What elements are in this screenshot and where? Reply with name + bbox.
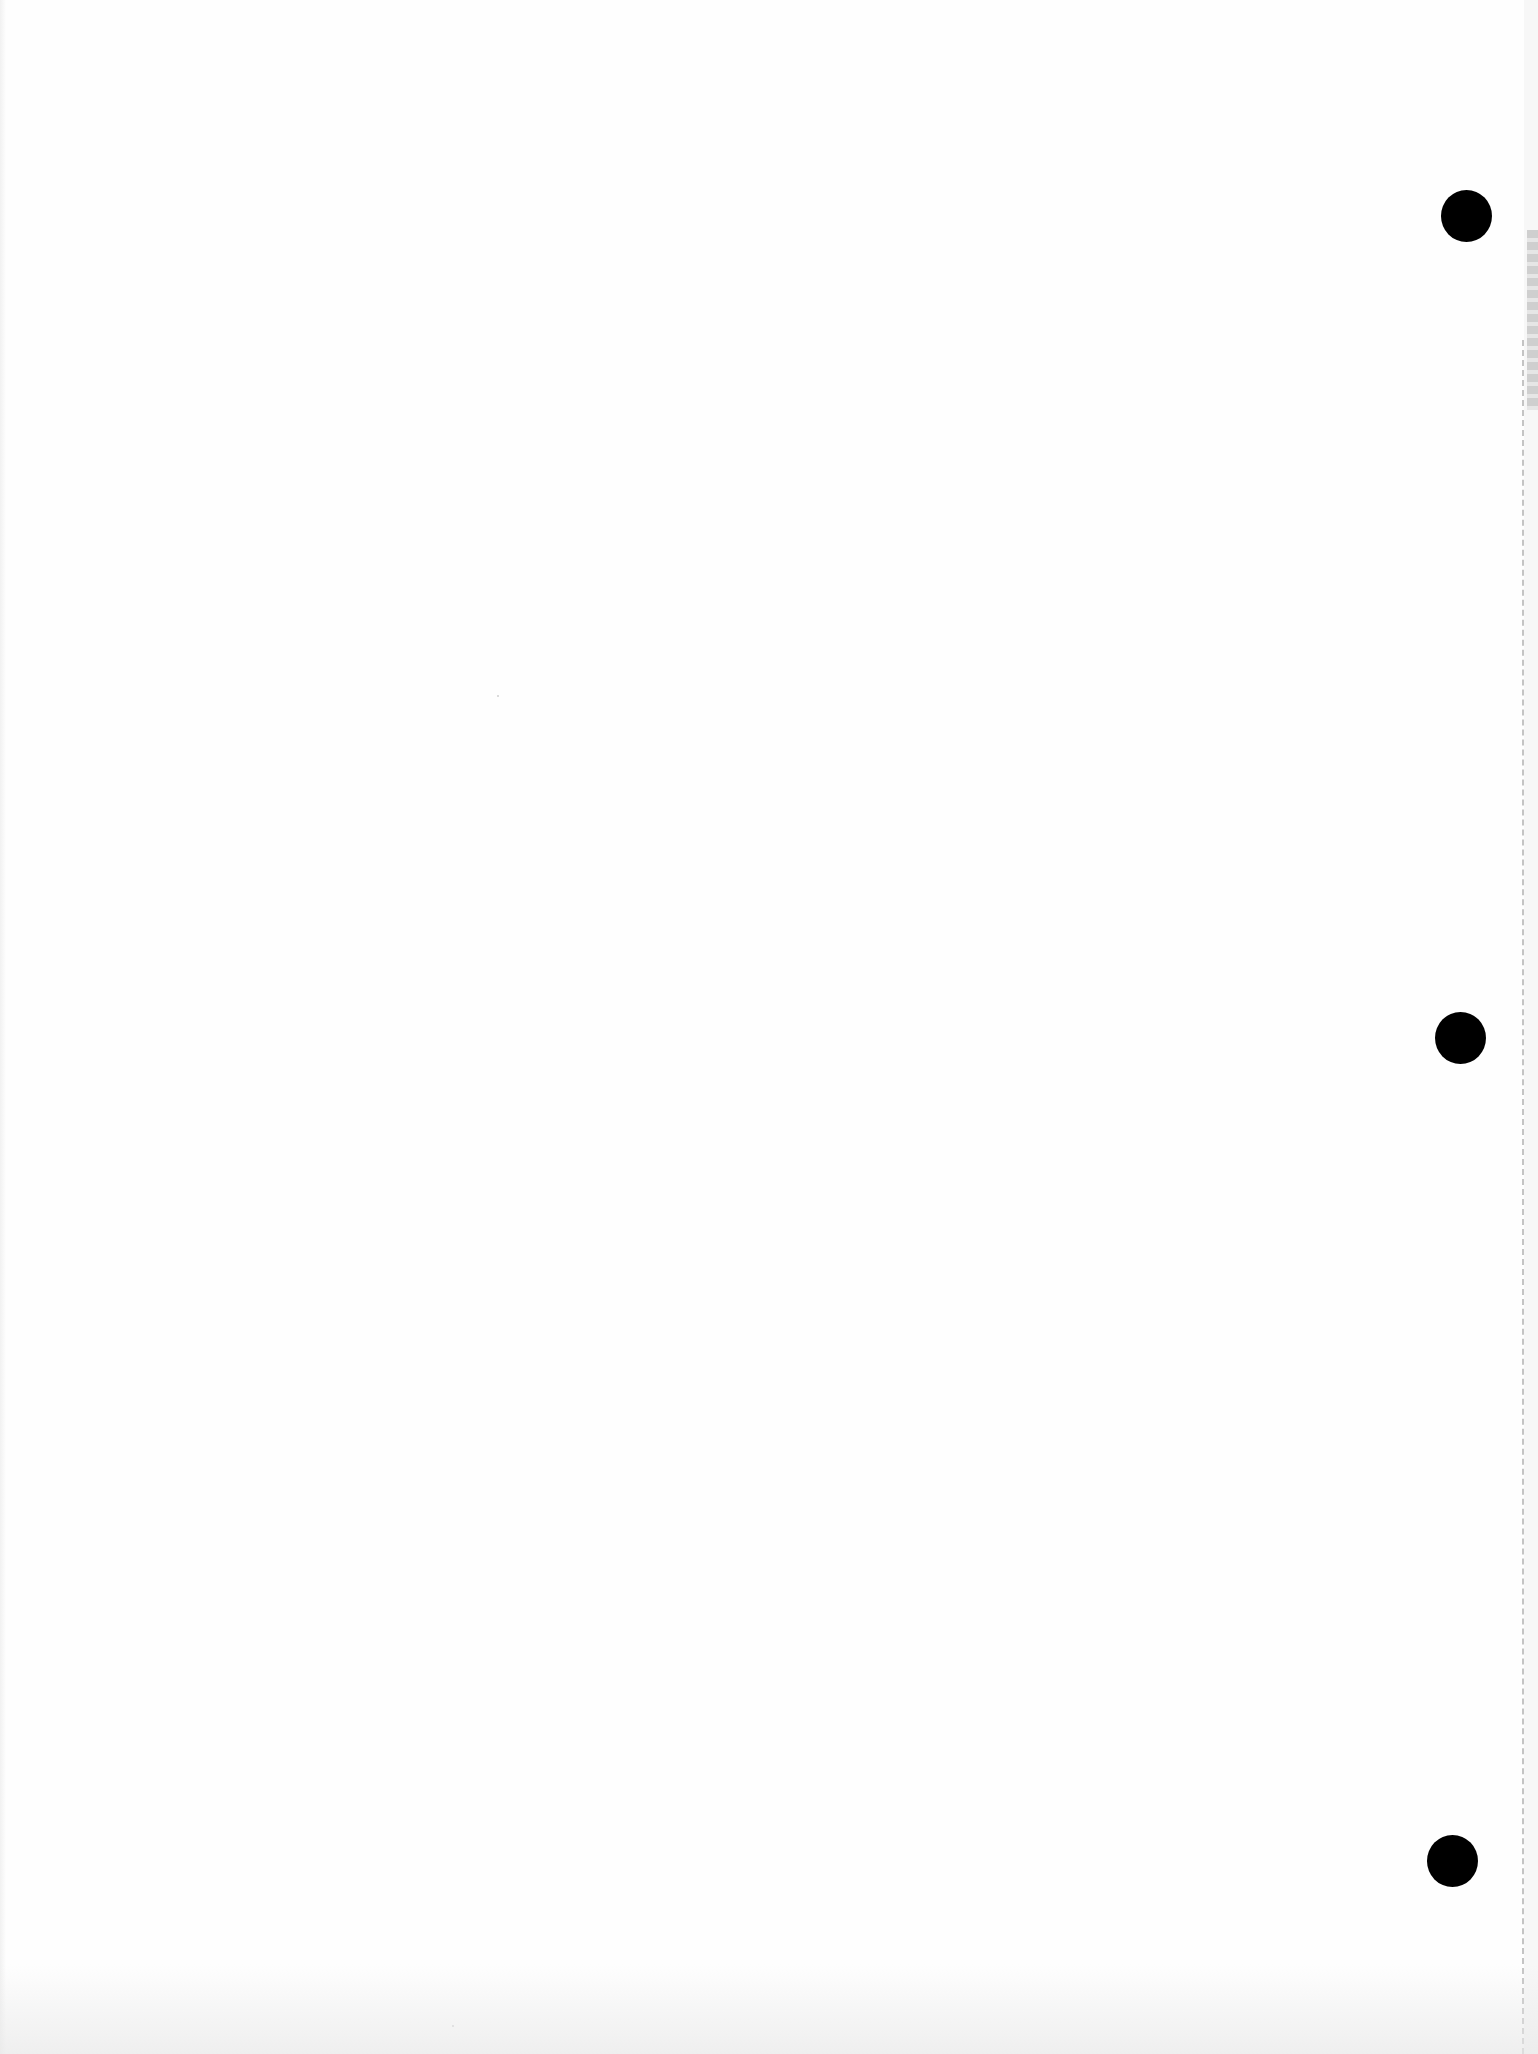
scan-edge-strip <box>1527 230 1538 410</box>
scan-speck <box>497 695 499 697</box>
left-scan-edge <box>0 0 6 2054</box>
punch-hole-bottom <box>1427 1835 1478 1887</box>
punch-hole-top <box>1441 190 1492 242</box>
blank-paper-page <box>0 0 1538 2054</box>
perforation-line <box>1522 340 1524 2054</box>
bottom-scan-noise <box>0 1964 1538 2054</box>
punch-hole-middle <box>1435 1012 1486 1064</box>
